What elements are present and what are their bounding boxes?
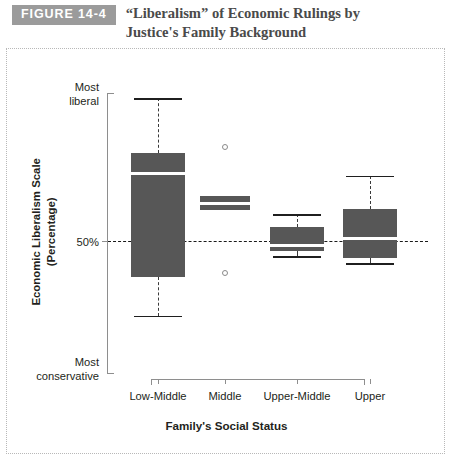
x-axis-tick (297, 379, 298, 384)
whisker-lower-cap (273, 256, 322, 258)
outlier-point (222, 144, 228, 150)
x-axis-title: Family's Social Status (7, 419, 446, 432)
x-axis-tick (370, 379, 371, 384)
whisker-lower-cap (134, 316, 183, 318)
whisker-upper-cap (273, 214, 322, 216)
median-line (131, 172, 185, 175)
chart-frame: Most liberal 50% Most conservative Econo… (6, 48, 445, 454)
whisker-upper-cap (346, 176, 395, 178)
x-axis-tick (225, 379, 226, 384)
median-line (200, 202, 250, 205)
y-axis-top-cap (107, 93, 114, 94)
x-axis-left-cap (151, 379, 152, 385)
x-axis-tick (158, 379, 159, 384)
y-axis-label-most-conservative: Most conservative (11, 355, 99, 383)
whisker-lower-cap (346, 263, 395, 265)
whisker-lower-stem (158, 277, 159, 316)
y-axis-bottom-cap (107, 373, 114, 374)
whisker-upper-stem (297, 214, 298, 227)
figure-number-badge: FIGURE 14-4 (12, 5, 116, 25)
median-line (343, 237, 397, 240)
figure-container: FIGURE 14-4 “Liberalism” of Economic Rul… (0, 0, 451, 460)
y-axis-line (107, 93, 108, 373)
boxplot-chart: Most liberal 50% Most conservative Econo… (7, 49, 446, 455)
x-axis-category-upper: Upper (310, 390, 430, 402)
x-axis-line (151, 379, 365, 380)
median-line (270, 244, 324, 247)
y-axis-title: Economic Liberalism Scale (Percentage) (29, 132, 59, 332)
outlier-point (222, 270, 228, 276)
figure-header: FIGURE 14-4 “Liberalism” of Economic Rul… (0, 0, 451, 48)
figure-title: “Liberalism” of Economic Rulings by Just… (126, 4, 416, 43)
x-axis-right-cap (364, 379, 365, 385)
whisker-upper-cap (134, 98, 183, 100)
box-iqr (343, 209, 397, 258)
whisker-upper-stem (158, 98, 159, 153)
whisker-upper-stem (370, 176, 371, 209)
y-axis-label-most-liberal: Most liberal (19, 80, 99, 108)
